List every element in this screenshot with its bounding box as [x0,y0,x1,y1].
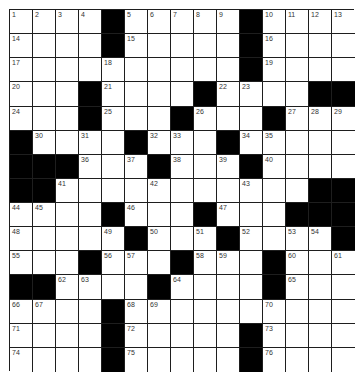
answer-cell-r9c4[interactable] [79,203,102,227]
answer-cell-r6c5[interactable] [102,131,125,155]
answer-cell-r12c9[interactable] [194,275,217,299]
answer-cell-r3c4[interactable] [79,58,102,82]
answer-cell-r13c7[interactable]: 69 [148,300,171,324]
answer-cell-r3c5[interactable]: 18 [102,58,125,82]
answer-cell-r13c9[interactable] [194,300,217,324]
answer-cell-r10c13[interactable]: 53 [286,227,309,251]
answer-cell-r11c5[interactable]: 56 [102,251,125,275]
answer-cell-r7c14[interactable] [309,155,332,179]
answer-cell-r6c11[interactable]: 34 [240,131,263,155]
answer-cell-r7c8[interactable]: 38 [171,155,194,179]
answer-cell-r9c7[interactable] [148,203,171,227]
answer-cell-r5c14[interactable]: 28 [309,107,332,131]
answer-cell-r14c4[interactable] [79,324,102,348]
answer-cell-r15c8[interactable] [171,348,194,372]
answer-cell-r6c15[interactable] [332,131,355,155]
answer-cell-r7c13[interactable] [286,155,309,179]
answer-cell-r3c12[interactable]: 19 [263,58,286,82]
answer-cell-r12c13[interactable]: 65 [286,275,309,299]
answer-cell-r15c3[interactable] [56,348,79,372]
answer-cell-r12c4[interactable]: 63 [79,275,102,299]
answer-cell-r15c4[interactable] [79,348,102,372]
answer-cell-r10c2[interactable] [33,227,56,251]
answer-cell-r14c10[interactable] [217,324,240,348]
answer-cell-r6c14[interactable] [309,131,332,155]
answer-cell-r7c4[interactable]: 36 [79,155,102,179]
answer-cell-r3c1[interactable]: 17 [10,58,33,82]
answer-cell-r4c10[interactable]: 22 [217,82,240,106]
answer-cell-r11c13[interactable]: 60 [286,251,309,275]
answer-cell-r4c5[interactable]: 21 [102,82,125,106]
answer-cell-r2c13[interactable] [286,34,309,58]
answer-cell-r3c6[interactable] [125,58,148,82]
answer-cell-r8c11[interactable]: 43 [240,179,263,203]
answer-cell-r5c1[interactable]: 24 [10,107,33,131]
answer-cell-r15c14[interactable] [309,348,332,372]
answer-cell-r10c7[interactable]: 50 [148,227,171,251]
answer-cell-r11c9[interactable]: 58 [194,251,217,275]
answer-cell-r2c12[interactable]: 16 [263,34,286,58]
answer-cell-r14c8[interactable] [171,324,194,348]
answer-cell-r12c10[interactable] [217,275,240,299]
answer-cell-r12c6[interactable] [125,275,148,299]
answer-cell-r15c12[interactable]: 76 [263,348,286,372]
answer-cell-r7c6[interactable]: 37 [125,155,148,179]
answer-cell-r14c6[interactable]: 72 [125,324,148,348]
answer-cell-r12c5[interactable] [102,275,125,299]
answer-cell-r10c3[interactable] [56,227,79,251]
answer-cell-r4c7[interactable] [148,82,171,106]
answer-cell-r8c10[interactable] [217,179,240,203]
answer-cell-r3c13[interactable] [286,58,309,82]
answer-cell-r14c15[interactable] [332,324,355,348]
answer-cell-r9c10[interactable]: 47 [217,203,240,227]
answer-cell-r4c11[interactable]: 23 [240,82,263,106]
answer-cell-r8c8[interactable] [171,179,194,203]
answer-cell-r7c15[interactable] [332,155,355,179]
answer-cell-r1c7[interactable]: 6 [148,10,171,34]
answer-cell-r2c1[interactable]: 14 [10,34,33,58]
answer-cell-r8c12[interactable] [263,179,286,203]
answer-cell-r4c6[interactable] [125,82,148,106]
answer-cell-r9c3[interactable] [56,203,79,227]
answer-cell-r11c2[interactable] [33,251,56,275]
answer-cell-r2c2[interactable] [33,34,56,58]
answer-cell-r1c1[interactable]: 1 [10,10,33,34]
answer-cell-r3c2[interactable] [33,58,56,82]
answer-cell-r1c9[interactable]: 8 [194,10,217,34]
answer-cell-r13c10[interactable] [217,300,240,324]
answer-cell-r15c1[interactable]: 74 [10,348,33,372]
answer-cell-r2c4[interactable] [79,34,102,58]
answer-cell-r13c15[interactable] [332,300,355,324]
answer-cell-r9c11[interactable] [240,203,263,227]
answer-cell-r12c11[interactable] [240,275,263,299]
answer-cell-r1c3[interactable]: 3 [56,10,79,34]
answer-cell-r3c14[interactable] [309,58,332,82]
answer-cell-r8c5[interactable] [102,179,125,203]
answer-cell-r11c7[interactable] [148,251,171,275]
answer-cell-r2c10[interactable] [217,34,240,58]
answer-cell-r5c15[interactable]: 29 [332,107,355,131]
answer-cell-r4c13[interactable] [286,82,309,106]
answer-cell-r11c14[interactable] [309,251,332,275]
answer-cell-r14c9[interactable] [194,324,217,348]
answer-cell-r1c4[interactable]: 4 [79,10,102,34]
answer-cell-r11c10[interactable]: 59 [217,251,240,275]
answer-cell-r13c6[interactable]: 68 [125,300,148,324]
answer-cell-r2c3[interactable] [56,34,79,58]
answer-cell-r13c1[interactable]: 66 [10,300,33,324]
answer-cell-r5c3[interactable] [56,107,79,131]
answer-cell-r2c14[interactable] [309,34,332,58]
answer-cell-r10c9[interactable]: 51 [194,227,217,251]
answer-cell-r6c4[interactable]: 31 [79,131,102,155]
answer-cell-r5c2[interactable] [33,107,56,131]
answer-cell-r14c1[interactable]: 71 [10,324,33,348]
answer-cell-r6c3[interactable] [56,131,79,155]
answer-cell-r10c14[interactable]: 54 [309,227,332,251]
answer-cell-r11c6[interactable]: 57 [125,251,148,275]
answer-cell-r1c14[interactable]: 12 [309,10,332,34]
answer-cell-r7c5[interactable] [102,155,125,179]
answer-cell-r2c6[interactable]: 15 [125,34,148,58]
answer-cell-r3c9[interactable] [194,58,217,82]
answer-cell-r3c7[interactable] [148,58,171,82]
answer-cell-r12c15[interactable] [332,275,355,299]
